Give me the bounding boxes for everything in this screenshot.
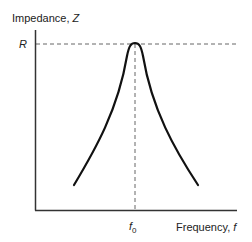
x-axis-label: Frequency, f	[176, 222, 236, 233]
impedance-chart: Impedance, Z R f0 Frequency, f	[0, 0, 252, 242]
x-axis-variable: f	[233, 221, 236, 233]
r-tick-label: R	[19, 39, 27, 50]
impedance-curve	[74, 43, 198, 185]
y-axis-label: Impedance, Z	[12, 13, 79, 24]
x-axis-label-text: Frequency,	[176, 221, 233, 233]
chart-canvas	[0, 0, 252, 242]
y-axis-variable: Z	[73, 12, 80, 24]
f0-subscript: 0	[132, 226, 136, 235]
y-axis-label-text: Impedance,	[12, 12, 73, 24]
f0-tick-label: f0	[129, 221, 137, 235]
